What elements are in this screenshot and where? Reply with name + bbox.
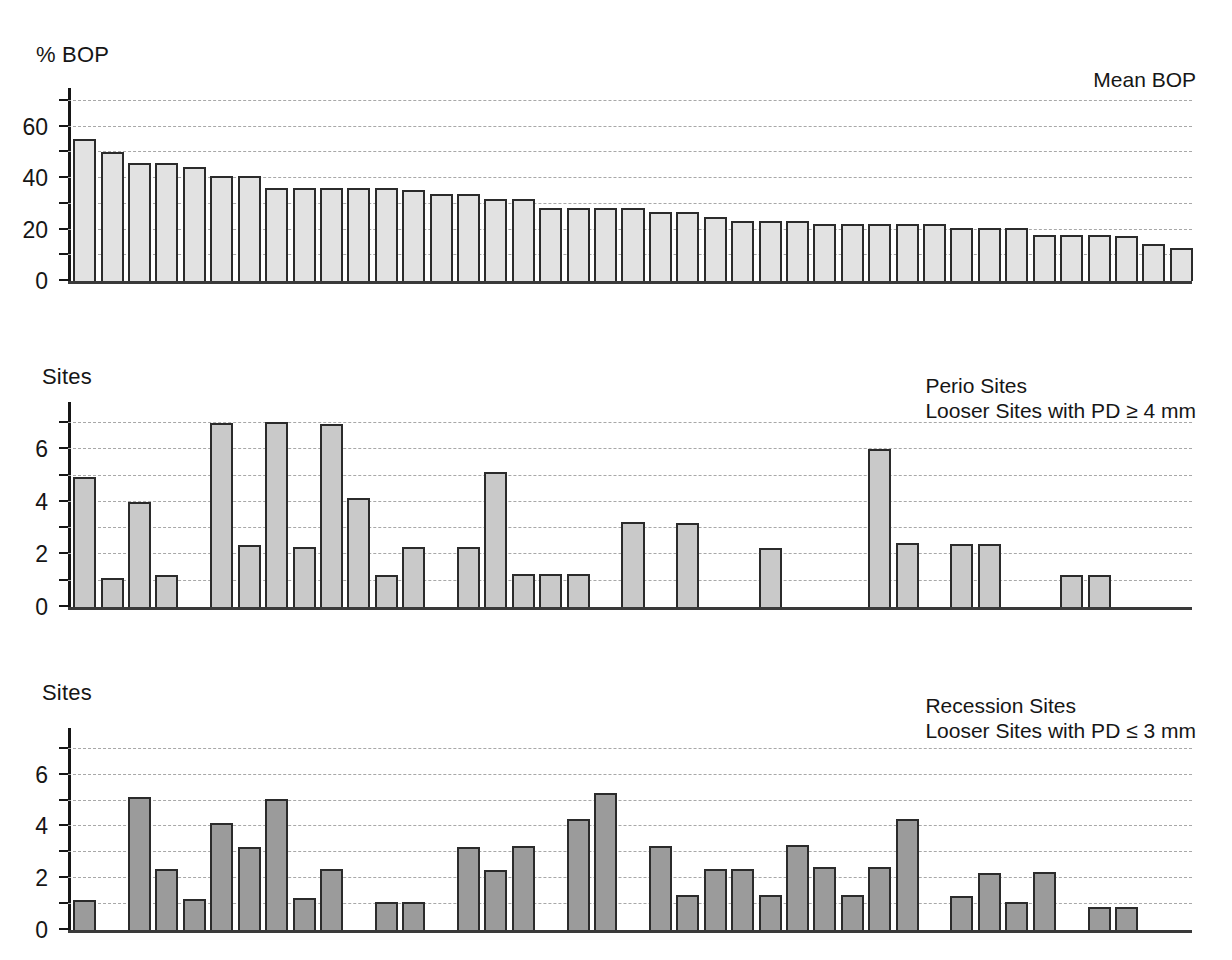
bar bbox=[731, 221, 754, 281]
y-axis-tick bbox=[59, 421, 68, 423]
y-axis-tick bbox=[59, 579, 68, 581]
bar bbox=[539, 208, 562, 281]
bar bbox=[896, 819, 919, 930]
bar bbox=[128, 502, 151, 607]
bar bbox=[813, 224, 836, 281]
bar bbox=[293, 898, 316, 930]
y-axis-caption-perio: Sites bbox=[42, 364, 92, 390]
y-axis-tick bbox=[59, 279, 68, 281]
bar bbox=[1005, 902, 1028, 930]
bar bbox=[567, 819, 590, 930]
bar bbox=[1115, 907, 1138, 930]
bar bbox=[155, 163, 178, 281]
bar bbox=[1088, 907, 1111, 930]
y-axis-caption-bop: % BOP bbox=[36, 42, 109, 68]
bar bbox=[402, 190, 425, 281]
y-axis-tick bbox=[59, 605, 68, 607]
bar bbox=[375, 902, 398, 930]
y-axis-tick-label: 0 bbox=[35, 596, 48, 619]
y-axis-tick bbox=[59, 824, 68, 826]
bar bbox=[676, 212, 699, 281]
y-axis-tick bbox=[59, 552, 68, 554]
y-axis-tick bbox=[59, 928, 68, 930]
bar bbox=[375, 575, 398, 607]
bar bbox=[567, 574, 590, 607]
bar bbox=[1088, 235, 1111, 281]
y-axis-caption-recession: Sites bbox=[42, 680, 92, 706]
bar bbox=[265, 188, 288, 281]
bar bbox=[457, 194, 480, 281]
bar bbox=[621, 522, 644, 607]
y-axis-tick bbox=[59, 876, 68, 878]
x-axis-line bbox=[68, 281, 1192, 284]
bar bbox=[484, 472, 507, 607]
bar bbox=[402, 902, 425, 930]
y-axis-tick bbox=[59, 228, 68, 230]
y-axis-tick bbox=[59, 799, 68, 801]
bar bbox=[1033, 235, 1056, 281]
bar bbox=[347, 188, 370, 281]
y-axis-tick bbox=[59, 474, 68, 476]
y-axis-tick bbox=[59, 99, 68, 101]
bar bbox=[923, 224, 946, 281]
plot-area-perio: 0246 bbox=[68, 402, 1192, 610]
bar bbox=[786, 221, 809, 281]
x-axis-line bbox=[68, 930, 1192, 933]
bar bbox=[512, 846, 535, 930]
bar bbox=[868, 449, 891, 607]
bar bbox=[621, 208, 644, 281]
y-axis-tick bbox=[59, 253, 68, 255]
bar bbox=[293, 188, 316, 281]
bar bbox=[402, 547, 425, 607]
plot-area-bop: 0204060 bbox=[68, 88, 1192, 284]
bar bbox=[1060, 235, 1083, 281]
y-axis-tick-label: 40 bbox=[22, 167, 48, 190]
bar bbox=[320, 869, 343, 930]
bar bbox=[950, 228, 973, 281]
y-axis-tick-label: 2 bbox=[35, 867, 48, 890]
y-axis-tick bbox=[59, 526, 68, 528]
bar bbox=[1170, 248, 1193, 281]
y-axis-tick bbox=[59, 773, 68, 775]
chart-panel-bop: % BOP Mean BOP 0204060 bbox=[0, 0, 1232, 330]
bar bbox=[183, 899, 206, 930]
bar bbox=[786, 845, 809, 930]
bar bbox=[320, 424, 343, 607]
bar bbox=[950, 896, 973, 930]
bar bbox=[1088, 575, 1111, 607]
y-axis-tick-label: 6 bbox=[35, 438, 48, 461]
bar bbox=[841, 224, 864, 281]
bar bbox=[128, 797, 151, 930]
bar bbox=[183, 167, 206, 282]
bar bbox=[238, 847, 261, 930]
bar bbox=[1005, 228, 1028, 281]
y-axis-tick bbox=[59, 500, 68, 502]
bar bbox=[155, 575, 178, 607]
bar bbox=[978, 228, 1001, 281]
y-axis-tick-label: 4 bbox=[35, 815, 48, 838]
bar bbox=[265, 422, 288, 607]
bar bbox=[457, 547, 480, 607]
bar bbox=[101, 578, 124, 607]
bar bbox=[128, 163, 151, 281]
bar bbox=[539, 574, 562, 607]
bar bbox=[594, 208, 617, 281]
bar-series-bop bbox=[71, 88, 1192, 281]
bar bbox=[265, 799, 288, 930]
bar bbox=[978, 873, 1001, 930]
bar bbox=[155, 869, 178, 930]
bar bbox=[210, 176, 233, 282]
y-axis-tick-label: 4 bbox=[35, 490, 48, 513]
y-axis-tick bbox=[59, 747, 68, 749]
bar bbox=[1115, 236, 1138, 281]
bar bbox=[457, 847, 480, 930]
plot-area-recession: 0246 bbox=[68, 728, 1192, 933]
bar bbox=[1142, 244, 1165, 281]
bar bbox=[567, 208, 590, 281]
bar bbox=[73, 139, 96, 281]
y-axis-tick bbox=[59, 447, 68, 449]
y-axis-tick-label: 60 bbox=[22, 115, 48, 138]
bar bbox=[347, 498, 370, 607]
bar bbox=[512, 199, 535, 281]
legend-title-recession: Recession Sites bbox=[925, 694, 1076, 717]
